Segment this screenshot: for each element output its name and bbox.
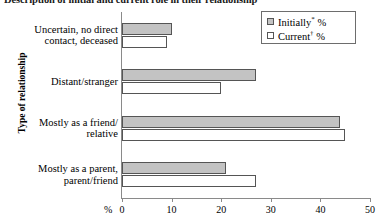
chart-title: Description of initial and current role …	[4, 0, 314, 7]
x-axis-tick-label: 50	[365, 204, 375, 215]
legend-item-initially: Initially* %	[267, 14, 355, 28]
x-axis-tick-label: 0	[120, 204, 125, 215]
legend-swatch-initially	[267, 18, 274, 25]
x-axis-tick-label: 20	[216, 204, 226, 215]
bar-initially	[122, 69, 256, 81]
chart-container: Description of initial and current role …	[0, 0, 380, 220]
x-axis-tick	[271, 198, 272, 202]
bar-initially	[122, 162, 226, 174]
bar-current	[122, 129, 345, 141]
x-axis-tick-label: 40	[315, 204, 325, 215]
bar-initially	[122, 116, 340, 128]
category-label-group: Uncertain, no direct contact, deceasedDi…	[0, 12, 120, 198]
x-axis-tick	[172, 198, 173, 202]
legend-label-initially: Initially* %	[278, 15, 326, 28]
legend-label-current: Current† %	[278, 29, 325, 42]
category-label: Mostly as a parent, parent/friend	[38, 163, 118, 186]
bar-current	[122, 175, 256, 187]
legend-swatch-current	[267, 32, 274, 39]
x-axis-tick-label: 30	[266, 204, 276, 215]
category-label: Uncertain, no direct contact, deceased	[34, 24, 118, 47]
x-axis-tick	[370, 198, 371, 202]
x-axis-tick-label: 10	[167, 204, 177, 215]
bar-initially	[122, 23, 172, 35]
x-axis-tick	[221, 198, 222, 202]
x-axis-tick	[122, 198, 123, 202]
bar-current	[122, 36, 167, 48]
x-axis-tick	[320, 198, 321, 202]
legend-item-current: Current† %	[267, 28, 355, 42]
category-label: Distant/stranger	[51, 76, 118, 88]
category-label: Mostly as a friend/ relative	[39, 117, 118, 140]
x-axis-line	[121, 198, 370, 199]
bar-current	[122, 82, 221, 94]
x-axis-unit-label: %	[104, 204, 112, 215]
chart-legend: Initially* % Current† %	[261, 11, 356, 44]
